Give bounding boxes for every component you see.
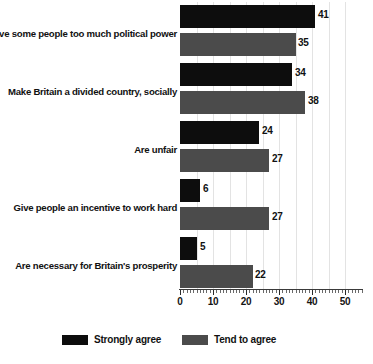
bar-value-label: 34 [295,67,306,78]
bar-value-label: 35 [298,37,309,48]
x-axis-minor-tick [233,290,234,293]
x-axis-minor-tick [299,290,300,293]
x-axis-minor-tick [302,290,303,293]
legend-swatch-icon [62,335,88,345]
x-axis-minor-tick [348,290,349,293]
x-axis-minor-tick [216,290,217,293]
legend-item-strongly-agree: Strongly agree [62,334,161,345]
x-axis-major-tick [213,290,214,295]
bar-strongly-agree [180,179,200,202]
x-axis-minor-tick [315,290,316,293]
gridline [296,2,297,289]
x-axis-major-tick [246,290,247,295]
x-axis-minor-tick [358,290,359,293]
bar-value-label: 24 [262,125,273,136]
x-axis-minor-tick [338,290,339,293]
gridline [312,2,313,289]
x-axis-minor-tick [236,290,237,293]
x-axis-tick-label: 0 [177,296,182,307]
x-axis-minor-tick [239,290,240,293]
bar-tend-to-agree [180,33,296,56]
category-label: Make Britain a divided country, socially [8,86,177,97]
x-axis-minor-tick [187,290,188,293]
x-axis-minor-tick [296,290,297,293]
x-axis-minor-tick [269,290,270,293]
x-axis-minor-tick [276,290,277,293]
x-axis-ticks [179,290,363,295]
x-axis-minor-tick [203,290,204,293]
x-axis-minor-tick [256,290,257,293]
x-axis-minor-tick [263,290,264,293]
x-axis-major-tick [180,290,181,295]
x-axis-minor-tick [352,290,353,293]
chart-legend: Strongly agree Tend to agree [0,330,373,352]
category-label: Give people an incentive to work hard [14,202,177,213]
x-axis-minor-tick [322,290,323,293]
bar-value-label: 27 [272,153,283,164]
x-axis-minor-tick [272,290,273,293]
x-axis-minor-tick [309,290,310,293]
x-axis-tick-label: 50 [340,296,351,307]
x-axis-minor-tick [342,290,343,293]
x-axis-minor-tick [183,290,184,293]
x-axis-minor-tick [332,290,333,293]
x-axis-tick-label: 30 [274,296,285,307]
x-axis-minor-tick [206,290,207,293]
bar-value-label: 38 [308,95,319,106]
x-axis-major-tick [345,290,346,295]
x-axis-minor-tick [335,290,336,293]
x-axis-minor-tick [305,290,306,293]
x-axis-minor-tick [355,290,356,293]
category-label: Give some people too much political powe… [0,28,177,39]
x-axis-minor-tick [282,290,283,293]
x-axis-minor-tick [319,290,320,293]
x-axis-minor-tick [329,290,330,293]
x-axis-minor-tick [249,290,250,293]
legend-label: Strongly agree [94,334,161,345]
x-axis-major-tick [312,290,313,295]
x-axis-minor-tick [289,290,290,293]
bar-strongly-agree [180,237,197,260]
x-axis-minor-tick [190,290,191,293]
bar-value-label: 27 [272,211,283,222]
x-axis-tick-label: 40 [307,296,318,307]
gridline [329,2,330,289]
x-axis-minor-tick [266,290,267,293]
x-axis-minor-tick [286,290,287,293]
legend-swatch-icon [182,335,208,345]
x-axis-minor-tick [243,290,244,293]
x-axis-minor-tick [193,290,194,293]
x-axis-minor-tick [210,290,211,293]
x-axis-tick-label: 20 [241,296,252,307]
x-axis-minor-tick [220,290,221,293]
bar-value-label: 5 [200,241,205,252]
legend-item-tend-to-agree: Tend to agree [182,334,276,345]
x-axis-minor-tick [223,290,224,293]
x-axis-minor-tick [230,290,231,293]
x-axis-minor-tick [259,290,260,293]
bar-value-label: 6 [203,183,208,194]
x-axis-minor-tick [292,290,293,293]
x-axis-minor-tick [200,290,201,293]
bar-strongly-agree [180,5,315,28]
x-axis-tick-label: 10 [208,296,219,307]
x-axis-major-tick [279,290,280,295]
x-axis-minor-tick [226,290,227,293]
bar-tend-to-agree [180,91,305,114]
x-axis-minor-tick [253,290,254,293]
bar-chart: Give some people too much political powe… [0,0,373,364]
bar-value-label: 41 [318,9,329,20]
bar-strongly-agree [180,121,259,144]
gridline [345,2,346,289]
bar-tend-to-agree [180,207,269,230]
category-label: Are unfair [134,144,177,155]
category-label: Are necessary for Britain's prosperity [15,260,177,271]
x-axis-minor-tick [362,290,363,293]
bar-tend-to-agree [180,149,269,172]
bar-value-label: 22 [255,269,266,280]
bar-strongly-agree [180,63,292,86]
x-axis-minor-tick [197,290,198,293]
bar-tend-to-agree [180,265,253,288]
x-axis-minor-tick [325,290,326,293]
legend-label: Tend to agree [214,334,276,345]
